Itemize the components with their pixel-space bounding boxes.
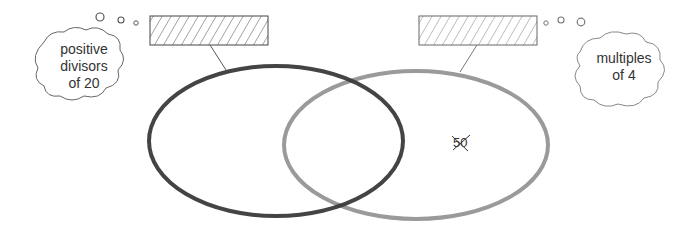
right-label-box — [419, 16, 537, 45]
right-set-ellipse — [284, 71, 548, 219]
right-connector-line — [460, 45, 477, 72]
right-label-line: of 4 — [584, 67, 664, 84]
left-label-box — [150, 16, 268, 45]
right-set-label: multiples of 4 — [584, 50, 664, 84]
left-label-line: divisors — [42, 58, 126, 75]
left-connector-line — [210, 45, 226, 70]
element-50: 50 — [453, 135, 467, 150]
right-label-line: multiples — [584, 50, 664, 67]
left-set-label: positive divisors of 20 — [42, 41, 126, 92]
venn-diagram-canvas — [0, 0, 685, 232]
left-label-line: of 20 — [42, 75, 126, 92]
left-label-line: positive — [42, 41, 126, 58]
left-set-ellipse — [149, 66, 403, 216]
